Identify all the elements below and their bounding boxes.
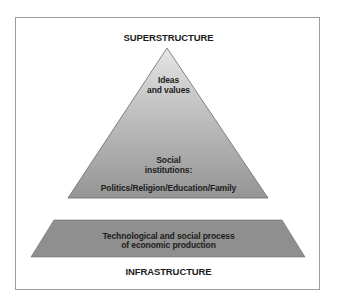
social-label: Social <box>0 156 337 165</box>
diagram-shapes <box>0 0 337 304</box>
values-label: and values <box>0 86 337 95</box>
superstructure-pyramid <box>68 48 268 198</box>
institutions-label: institutions: <box>0 166 337 175</box>
production-label-line2: of economic production <box>0 241 337 250</box>
superstructure-label: SUPERSTRUCTURE <box>0 33 337 43</box>
infrastructure-label: INFRASTRUCTURE <box>0 267 337 277</box>
ideas-label: Ideas <box>0 76 337 85</box>
institutions-list: Politics/Religion/Education/Family <box>0 184 337 193</box>
